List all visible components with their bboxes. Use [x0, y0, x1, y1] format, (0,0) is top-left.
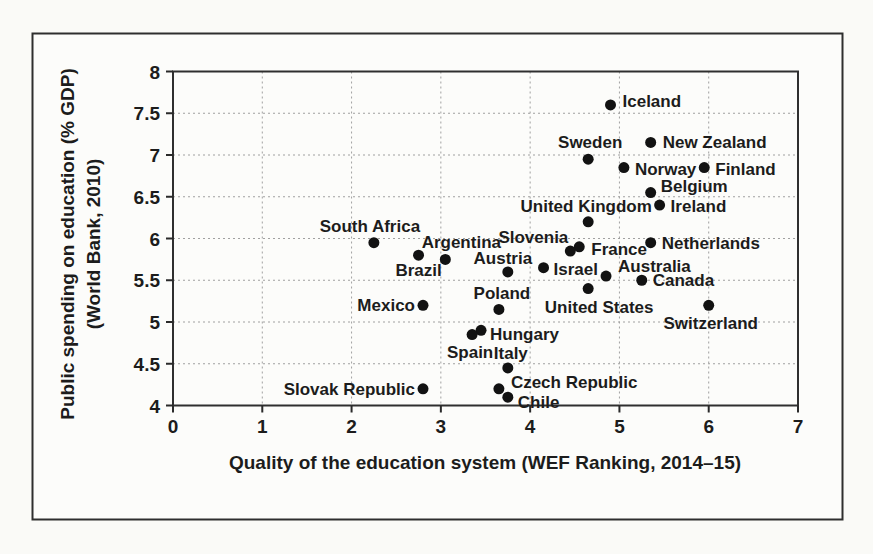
point-label: Italy	[494, 344, 529, 363]
x-tick-label: 2	[346, 416, 357, 437]
point-label: Israel	[554, 260, 598, 279]
data-point	[583, 154, 594, 165]
data-point	[493, 383, 504, 394]
point-label: Slovak Republic	[284, 380, 415, 399]
point-label: Austria	[474, 249, 533, 268]
point-label: Iceland	[623, 92, 682, 111]
y-tick-label: 4.5	[134, 354, 161, 375]
point-label: Czech Republic	[511, 373, 638, 392]
y-tick-label: 6	[149, 229, 160, 250]
data-point	[601, 271, 612, 282]
y-axis-title-line1: Public spending on education (% GDP)	[57, 68, 78, 420]
point-label: United Kingdom	[521, 197, 652, 216]
data-point	[440, 254, 451, 265]
y-tick-label: 7.5	[134, 103, 161, 124]
point-label: Switzerland	[663, 314, 757, 333]
point-label: Spain	[447, 343, 493, 362]
point-label: Sweden	[558, 133, 622, 152]
data-point	[605, 99, 616, 110]
data-point	[654, 200, 665, 211]
data-point	[502, 362, 513, 373]
y-tick-label: 5	[149, 312, 160, 333]
data-point	[618, 162, 629, 173]
x-tick-label: 6	[703, 416, 714, 437]
point-label: Hungary	[490, 325, 560, 344]
data-point	[583, 216, 594, 227]
y-tick-label: 6.5	[134, 187, 161, 208]
x-tick-label: 7	[793, 416, 804, 437]
point-label: Poland	[474, 284, 531, 303]
data-point	[703, 300, 714, 311]
point-label: France	[591, 240, 647, 259]
data-point	[645, 137, 656, 148]
point-label: Brazil	[395, 261, 441, 280]
point-label: United States	[545, 298, 654, 317]
x-axis-title: Quality of the education system (WEF Ran…	[229, 452, 741, 473]
point-label: Mexico	[357, 296, 415, 315]
x-tick-label: 0	[168, 416, 179, 437]
scanned-figure-page: 0123456744.555.566.577.58 IcelandNew Zea…	[0, 0, 873, 554]
y-tick-label: 5.5	[134, 270, 161, 291]
data-point	[565, 246, 576, 257]
y-axis-title-line2: (World Bank, 2010)	[83, 159, 104, 330]
data-point	[467, 329, 478, 340]
y-tick-label: 7	[149, 145, 160, 166]
y-tick-label: 8	[149, 62, 160, 83]
x-tick-label: 3	[436, 416, 447, 437]
data-point	[493, 304, 504, 315]
data-point	[418, 383, 429, 394]
data-point	[418, 300, 429, 311]
point-label: New Zealand	[663, 133, 767, 152]
point-label: Slovenia	[498, 228, 568, 247]
data-point	[538, 262, 549, 273]
x-tick-label: 1	[257, 416, 268, 437]
point-label: Netherlands	[662, 234, 760, 253]
data-point	[502, 266, 513, 277]
data-point	[368, 237, 379, 248]
data-point	[583, 283, 594, 294]
x-tick-label: 4	[525, 416, 536, 437]
scatter-chart: 0123456744.555.566.577.58 IcelandNew Zea…	[0, 0, 873, 554]
point-label: Belgium	[661, 177, 728, 196]
point-label: Chile	[518, 393, 560, 412]
point-label: Canada	[653, 271, 715, 290]
data-point	[502, 392, 513, 403]
point-label: South Africa	[320, 217, 421, 236]
point-label: Ireland	[671, 197, 727, 216]
data-point	[636, 275, 647, 286]
data-point	[699, 162, 710, 173]
y-tick-label: 4	[149, 396, 160, 417]
x-tick-label: 5	[614, 416, 625, 437]
